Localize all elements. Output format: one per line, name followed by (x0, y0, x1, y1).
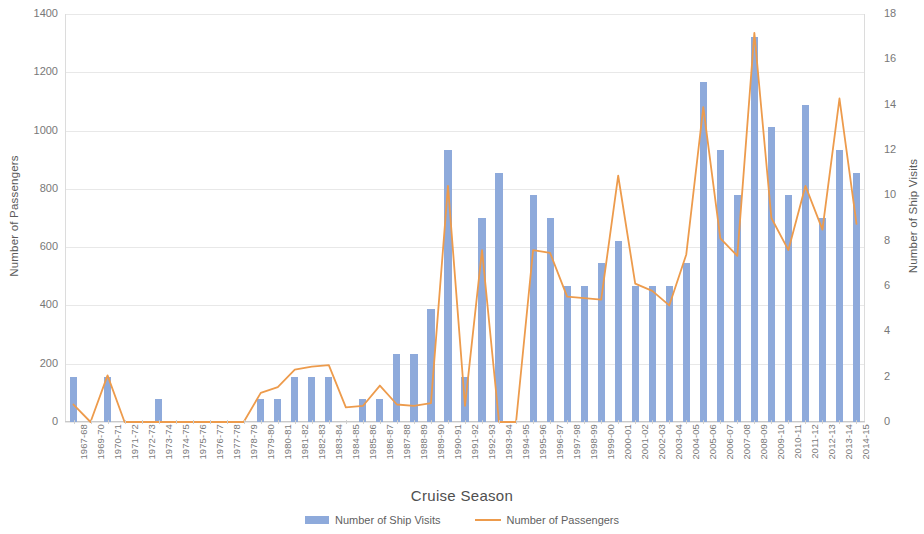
legend-item[interactable]: Number of Passengers (475, 514, 620, 526)
line-series-passengers (65, 14, 865, 422)
y-axis-right-ticks: 024681012141618 (884, 0, 924, 434)
y-axis-left-tick-label: 0 (18, 415, 58, 427)
x-axis-tick-label: 1999-00 (605, 424, 616, 460)
legend-line-swatch-icon (475, 519, 501, 521)
x-axis-tick-label: 2005-06 (707, 424, 718, 460)
x-axis-tick-label: 2003-04 (673, 424, 684, 460)
x-axis-tick-mark (448, 420, 449, 424)
x-axis-tick-mark (346, 420, 347, 424)
legend-item-label: Number of Passengers (507, 514, 620, 526)
x-axis-tick-label: 2012-13 (826, 424, 837, 460)
x-axis-tick-mark (720, 420, 721, 424)
legend-item[interactable]: Number of Ship Visits (305, 514, 441, 526)
x-axis-tick-label: 1987-88 (401, 424, 412, 460)
x-axis-tick-label: 1972-73 (146, 424, 157, 460)
x-axis-tick-label: 1983-84 (333, 424, 344, 460)
x-axis-ticks: 1967-681969-701970-711971-721972-731973-… (65, 424, 865, 484)
chart-legend: Number of Ship VisitsNumber of Passenger… (0, 514, 924, 526)
x-axis-tick-label: 1985-86 (367, 424, 378, 460)
x-axis-tick-label: 1990-91 (452, 424, 463, 460)
x-axis-tick-mark (261, 420, 262, 424)
x-axis-tick-mark (74, 420, 75, 424)
x-axis-tick-mark (805, 420, 806, 424)
x-axis-tick-label: 1988-89 (418, 424, 429, 460)
x-axis-tick-label: 1969-70 (95, 424, 106, 460)
x-axis-tick-mark (499, 420, 500, 424)
x-axis-tick-label: 1982-83 (316, 424, 327, 460)
x-axis-tick-label: 2010-11 (792, 424, 803, 459)
x-axis-tick-label: 1967-68 (78, 424, 89, 460)
x-axis-tick-label: 1986-87 (384, 424, 395, 460)
y-axis-right-tick-label: 14 (884, 98, 924, 110)
x-axis-tick-label: 1998-99 (588, 424, 599, 460)
x-axis-tick-mark (108, 420, 109, 424)
x-axis-tick-mark (686, 420, 687, 424)
x-axis-tick-label: 2008-09 (758, 424, 769, 460)
x-axis-tick-mark (737, 420, 738, 424)
x-axis-tick-mark (125, 420, 126, 424)
x-axis-tick-label: 1981-82 (299, 424, 310, 460)
x-axis-tick-label: 1974-75 (180, 424, 191, 460)
x-axis-tick-mark (176, 420, 177, 424)
y-axis-right-tick-label: 12 (884, 143, 924, 155)
x-axis-tick-label: 2013-14 (843, 424, 854, 460)
x-axis-tick-label: 2001-02 (639, 424, 650, 460)
x-axis-tick-mark (584, 420, 585, 424)
x-axis-tick-mark (839, 420, 840, 424)
legend-item-label: Number of Ship Visits (335, 514, 441, 526)
x-axis-tick-mark (227, 420, 228, 424)
y-axis-left-tick-label: 1400 (18, 7, 58, 19)
x-axis-tick-mark (550, 420, 551, 424)
x-axis-tick-label: 1992-93 (486, 424, 497, 460)
x-axis-tick-mark (703, 420, 704, 424)
x-axis-tick-mark (295, 420, 296, 424)
x-axis-tick-mark (635, 420, 636, 424)
x-axis-tick-label: 2014-15 (860, 424, 871, 460)
x-axis-tick-mark (822, 420, 823, 424)
y-axis-left-tick-label: 400 (18, 298, 58, 310)
x-axis-tick-label: 1976-77 (214, 424, 225, 460)
x-axis-tick-label: 1991-92 (469, 424, 480, 460)
y-axis-right-tick-label: 2 (884, 370, 924, 382)
x-axis-tick-mark (210, 420, 211, 424)
x-axis-tick-label: 1979-80 (265, 424, 276, 460)
x-axis-tick-mark (482, 420, 483, 424)
x-axis-tick-mark (618, 420, 619, 424)
x-axis-tick-label: 2011-12 (809, 424, 820, 459)
y-axis-left-tick-label: 1000 (18, 124, 58, 136)
y-axis-left-tick-label: 600 (18, 240, 58, 252)
x-axis-title: Cruise Season (0, 487, 924, 504)
x-axis-tick-label: 1996-97 (554, 424, 565, 460)
x-axis-tick-mark (278, 420, 279, 424)
y-axis-right-tick-label: 18 (884, 7, 924, 19)
y-axis-right-tick-label: 10 (884, 188, 924, 200)
x-axis-tick-mark (244, 420, 245, 424)
x-axis-tick-mark (414, 420, 415, 424)
x-axis-tick-mark (567, 420, 568, 424)
y-axis-right-tick-label: 4 (884, 324, 924, 336)
x-axis-tick-label: 2002-03 (656, 424, 667, 460)
y-axis-left-tick-label: 800 (18, 182, 58, 194)
x-axis-tick-mark (465, 420, 466, 424)
plot-area (65, 14, 865, 422)
x-axis-tick-label: 1995-96 (537, 424, 548, 460)
x-axis-tick-mark (533, 420, 534, 424)
x-axis-tick-mark (193, 420, 194, 424)
y-axis-right-tick-label: 8 (884, 234, 924, 246)
x-axis-tick-label: 1975-76 (197, 424, 208, 460)
x-axis-tick-mark (363, 420, 364, 424)
y-axis-left-tick-label: 200 (18, 357, 58, 369)
x-axis-tick-mark (159, 420, 160, 424)
y-axis-right-tick-label: 6 (884, 279, 924, 291)
y-axis-left-tick-label: 1200 (18, 65, 58, 77)
x-axis-tick-label: 1978-79 (248, 424, 259, 460)
legend-bar-swatch-icon (305, 516, 329, 524)
x-axis-tick-label: 1989-90 (435, 424, 446, 460)
x-axis-tick-mark (652, 420, 653, 424)
x-axis-tick-mark (380, 420, 381, 424)
x-axis-tick-mark (142, 420, 143, 424)
x-axis-tick-mark (516, 420, 517, 424)
x-axis-tick-label: 2009-10 (775, 424, 786, 460)
x-axis-tick-mark (397, 420, 398, 424)
x-axis-tick-label: 1970-71 (112, 424, 123, 460)
